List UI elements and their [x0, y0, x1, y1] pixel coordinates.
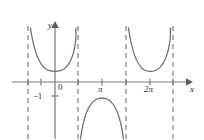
x-tick-label-2pi: 2π [144, 84, 153, 94]
sec-branch-middle-down [81, 98, 124, 139]
x-axis-label: x [190, 84, 194, 94]
graph-figure: y x 0 −1 π 2π [0, 0, 204, 140]
sec-branch-right [129, 28, 171, 71]
graph-canvas [0, 0, 204, 140]
origin-label: 0 [58, 82, 63, 92]
y-tick-label-neg1: −1 [33, 91, 42, 101]
sec-branch-left [31, 28, 76, 71]
y-axis-label: y [48, 20, 52, 30]
x-tick-label-pi: π [98, 84, 103, 94]
y-axis-arrow [51, 21, 58, 28]
